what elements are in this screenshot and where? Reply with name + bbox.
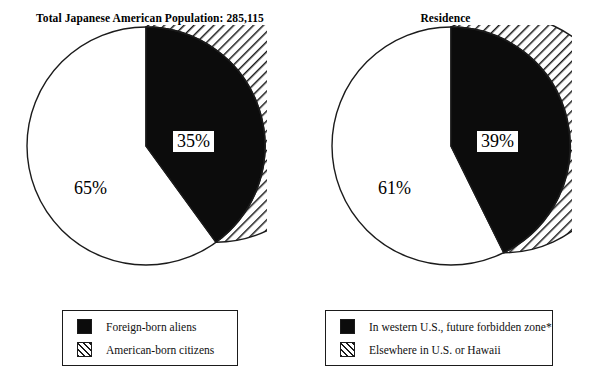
legend-residence: In western U.S., future forbidden zone* … xyxy=(325,310,553,366)
pie-value-label-elsewhere-in-us-or-hawaii: 61% xyxy=(378,179,411,197)
page-title-residence: Residence xyxy=(300,12,591,24)
pie-chart-population xyxy=(25,25,267,267)
legend-label-foreign-born-aliens: Foreign-born aliens xyxy=(106,321,196,333)
legend-item-elsewhere-in-us-or-hawaii: Elsewhere in U.S. or Hawaii xyxy=(340,342,501,357)
pie-value-label-american-born-citizens: 65% xyxy=(74,179,107,197)
pie-value-label-in-western-us-forbidden-zone: 39% xyxy=(477,131,518,152)
legend-label-in-western-us-forbidden-zone: In western U.S., future forbidden zone* xyxy=(369,321,552,333)
pie-svg-population xyxy=(25,25,267,267)
chart-panel-population: Total Japanese American Population: 285,… xyxy=(0,0,300,381)
pie-value-label-foreign-born-aliens: 35% xyxy=(173,131,214,152)
legend-item-foreign-born-aliens: Foreign-born aliens xyxy=(77,319,196,334)
legend-item-in-western-us-forbidden-zone: In western U.S., future forbidden zone* xyxy=(340,319,552,334)
legend-item-american-born-citizens: American-born citizens xyxy=(77,342,214,357)
hatch-swatch-icon xyxy=(77,342,92,357)
pie-svg-residence xyxy=(330,25,572,267)
solid-black-swatch-icon xyxy=(340,319,355,334)
legend-label-american-born-citizens: American-born citizens xyxy=(106,344,214,356)
legend-population: Foreign-born aliens American-born citize… xyxy=(62,310,238,366)
solid-black-swatch-icon xyxy=(77,319,92,334)
pie-chart-residence xyxy=(330,25,572,267)
legend-label-elsewhere-in-us-or-hawaii: Elsewhere in U.S. or Hawaii xyxy=(369,344,501,356)
page-title-population: Total Japanese American Population: 285,… xyxy=(0,12,300,24)
hatch-swatch-icon xyxy=(340,342,355,357)
